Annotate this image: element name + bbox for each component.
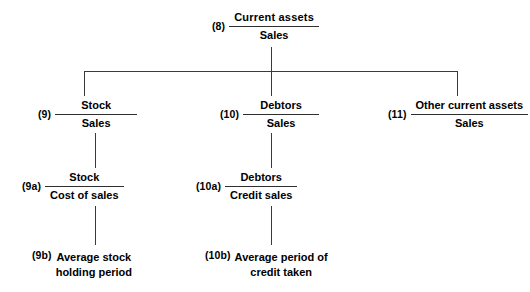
fraction-10a: Debtors Credit sales bbox=[225, 170, 297, 203]
connector-node-9a-to-9b bbox=[95, 206, 96, 245]
node-debtors-credit-sales: (10a) Debtors Credit sales bbox=[196, 170, 297, 203]
node-debtors-sales: (10) Debtors Sales bbox=[220, 98, 319, 131]
numerator-11: Other current assets bbox=[411, 98, 529, 113]
node-current-assets-sales: (8) Current assets Sales bbox=[212, 10, 319, 43]
node-ref-9a: (9a) bbox=[22, 181, 45, 193]
fraction-bar-8 bbox=[229, 26, 319, 27]
leaf-10b-line2: credit taken bbox=[235, 265, 328, 280]
node-average-stock-holding-period: (9b) Average stock holding period bbox=[32, 250, 132, 279]
connector-node-9-to-9a bbox=[95, 133, 96, 168]
denominator-10: Sales bbox=[243, 116, 319, 131]
leaf-9b-line1: Average stock bbox=[56, 251, 131, 263]
node-ref-10a: (10a) bbox=[196, 181, 225, 193]
denominator-10a: Credit sales bbox=[225, 188, 297, 203]
fraction-9a: Stock Cost of sales bbox=[45, 170, 123, 203]
denominator-11: Sales bbox=[411, 116, 529, 131]
fraction-bar-11 bbox=[411, 114, 529, 115]
connector-node-10a-to-10b bbox=[271, 206, 272, 245]
ratio-pyramid-diagram: (8) Current assets Sales (9) Stock Sales… bbox=[0, 0, 530, 292]
node-ref-8: (8) bbox=[212, 21, 229, 33]
node-ref-11: (11) bbox=[388, 109, 411, 121]
connector-8-to-bus bbox=[271, 47, 272, 71]
fraction-11: Other current assets Sales bbox=[411, 98, 529, 131]
leaf-text-9b: Average stock holding period bbox=[56, 250, 132, 279]
node-stock-sales: (9) Stock Sales bbox=[38, 98, 137, 131]
numerator-10a: Debtors bbox=[225, 170, 297, 185]
numerator-10: Debtors bbox=[243, 98, 319, 113]
fraction-8: Current assets Sales bbox=[229, 10, 319, 43]
numerator-8: Current assets bbox=[229, 10, 319, 25]
fraction-bar-9 bbox=[55, 114, 137, 115]
leaf-text-10b: Average period of credit taken bbox=[235, 250, 328, 279]
leaf-9b-line2: holding period bbox=[56, 265, 132, 280]
denominator-8: Sales bbox=[229, 28, 319, 43]
numerator-9a: Stock bbox=[45, 170, 123, 185]
numerator-9: Stock bbox=[55, 98, 137, 113]
fraction-10: Debtors Sales bbox=[243, 98, 319, 131]
node-other-current-assets-sales: (11) Other current assets Sales bbox=[388, 98, 528, 131]
denominator-9: Sales bbox=[55, 116, 137, 131]
node-ref-10: (10) bbox=[220, 109, 243, 121]
node-ref-10b: (10b) bbox=[205, 250, 235, 262]
node-stock-cost-of-sales: (9a) Stock Cost of sales bbox=[22, 170, 124, 203]
connector-bus-to-node-9 bbox=[84, 71, 85, 96]
fraction-bar-10 bbox=[243, 114, 319, 115]
denominator-9a: Cost of sales bbox=[45, 188, 123, 203]
node-average-period-of-credit-taken: (10b) Average period of credit taken bbox=[205, 250, 328, 279]
node-ref-9: (9) bbox=[38, 109, 55, 121]
fraction-bar-9a bbox=[45, 186, 123, 187]
connector-bus-to-node-10 bbox=[271, 71, 272, 96]
fraction-bar-10a bbox=[225, 186, 297, 187]
fraction-9: Stock Sales bbox=[55, 98, 137, 131]
leaf-10b-line1: Average period of bbox=[235, 251, 328, 263]
node-ref-9b: (9b) bbox=[32, 250, 56, 262]
connector-bus-to-node-11 bbox=[457, 71, 458, 96]
connector-node-10-to-10a bbox=[271, 133, 272, 168]
